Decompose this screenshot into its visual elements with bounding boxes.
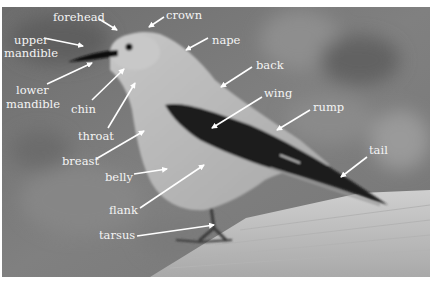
- label-back: back: [256, 58, 285, 72]
- label-tail: tail: [369, 143, 388, 157]
- label-lower-mandible-2: mandible: [6, 97, 60, 111]
- label-forehead: forehead: [53, 10, 106, 24]
- label-tarsus: tarsus: [99, 228, 135, 242]
- label-breast: breast: [62, 154, 99, 168]
- label-wing: wing: [264, 86, 293, 100]
- bird-photo: foreheadcrownuppermandiblenapelowermandi…: [2, 7, 430, 277]
- label-upper-mandible-1: upper: [14, 33, 49, 47]
- label-nape: nape: [212, 33, 241, 47]
- label-rump: rump: [313, 100, 344, 114]
- label-crown: crown: [166, 8, 203, 22]
- label-upper-mandible-2: mandible: [4, 46, 58, 60]
- label-belly: belly: [105, 170, 134, 184]
- label-lower-mandible-1: lower: [16, 83, 49, 97]
- label-flank: flank: [109, 203, 139, 217]
- label-chin: chin: [71, 102, 97, 116]
- label-throat: throat: [78, 129, 114, 143]
- diagram-frame: foreheadcrownuppermandiblenapelowermandi…: [2, 7, 430, 277]
